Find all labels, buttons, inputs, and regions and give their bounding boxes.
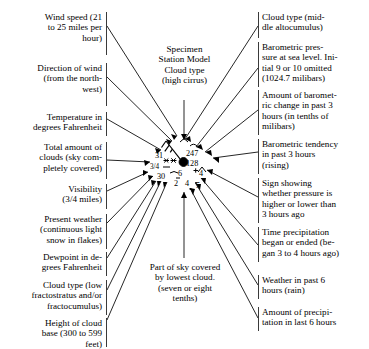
label-line: pletely covered)	[0, 163, 102, 173]
value-dewpoint: 30	[157, 173, 165, 181]
label-line: whether pressure is	[262, 188, 369, 198]
label-precip-time: Time precipitation began or ended (be- g…	[262, 227, 369, 258]
label-line: gan 3 to 4 hours ago)	[262, 248, 369, 258]
diagram-title: Specimen Station Model Cloud type (high …	[132, 44, 237, 86]
label-line: Cloud type (mid-	[262, 12, 369, 22]
leader-rule-right	[258, 12, 259, 38]
label-line: tial 9 or 10 omitted	[262, 63, 369, 73]
label-line: (seven or eight	[124, 283, 246, 293]
label-line: Time precipitation	[262, 227, 369, 237]
label-line: sure at sea level. Ini-	[262, 52, 369, 62]
label-line: base (300 to 599	[0, 328, 102, 338]
label-dewpoint: Dewpoint in de- grees Fahrenheit	[0, 252, 102, 273]
value-past-weather: 4	[185, 180, 189, 188]
leader-rule-right	[258, 178, 259, 223]
label-middle-cloud-type: Cloud type (mid- dle altocumulus)	[262, 12, 369, 33]
leader-rule-left	[106, 280, 107, 315]
leader-rule-left	[106, 184, 107, 209]
label-precip-amount: Amount of precipi- tation in last 6 hour…	[262, 307, 369, 328]
leader-rule-left	[106, 12, 107, 55]
label-line: fractocumulus)	[0, 301, 102, 311]
leader-rule-left	[106, 252, 107, 276]
label-line: (from the north-	[0, 73, 102, 83]
label-line: Total amount of	[0, 142, 102, 152]
label-sea-level-pressure: Barometric pres- sure at sea level. Ini-…	[262, 42, 369, 84]
label-line: degrees Fahrenheit	[0, 122, 102, 132]
label-line: Sign showing	[262, 178, 369, 188]
label-cloud-base-height: Height of cloud base (300 to 599 feet)	[0, 318, 102, 349]
label-visibility: Visibility (3/4 miles)	[0, 184, 102, 205]
label-line: Barometric pres-	[262, 42, 369, 52]
label-line: hours (rain)	[262, 285, 369, 295]
label-line: Wind speed (21	[0, 12, 102, 22]
label-wind-direction: Direction of wind (from the north- west)	[0, 63, 102, 94]
title-line: Specimen	[132, 44, 237, 54]
label-line: Amount of baromet-	[262, 90, 369, 100]
label-wind-speed: Wind speed (21 to 25 miles per hour)	[0, 12, 102, 43]
value-precip-time: 6	[178, 170, 182, 178]
label-line: Barometric tendency	[262, 139, 369, 149]
label-line: Dewpoint in de-	[0, 252, 102, 262]
value-temperature: 31	[155, 152, 163, 160]
label-line: by lowest cloud.	[124, 272, 246, 282]
label-line: to 25 miles per	[0, 22, 102, 32]
label-sky-covered-lowest-cloud: Part of sky covered by lowest cloud. (se…	[124, 262, 246, 304]
label-line: Present weather	[0, 214, 102, 224]
title-line: Cloud type	[132, 65, 237, 75]
label-line: west)	[0, 84, 102, 94]
label-line: higher or lower than	[262, 199, 369, 209]
leader-rule-right	[258, 275, 259, 299]
label-low-cloud-type: Cloud type (low fractostratus and/or fra…	[0, 280, 102, 311]
label-line: Visibility	[0, 184, 102, 194]
label-line: began or ended (be-	[262, 237, 369, 247]
label-line: Cloud type (low	[0, 280, 102, 290]
value-pressure-change: 128	[186, 160, 198, 168]
label-line: fractostratus and/or	[0, 290, 102, 300]
label-line: Part of sky covered	[124, 262, 246, 272]
label-line: milibars)	[262, 121, 369, 131]
label-line: clouds (sky com-	[0, 152, 102, 162]
label-line: Temperature in	[0, 112, 102, 122]
label-line: Height of cloud	[0, 318, 102, 328]
leader-rule-right	[258, 227, 259, 262]
label-line: tation in last 6 hours	[262, 317, 369, 327]
label-pressure-sign: Sign showing whether pressure is higher …	[262, 178, 369, 220]
label-line: hour)	[0, 33, 102, 43]
label-line: snow in flakes)	[0, 235, 102, 245]
leader-rule-left	[106, 63, 107, 106]
label-line: (3/4 miles)	[0, 194, 102, 204]
label-line: (continuous light	[0, 224, 102, 234]
leader-rule-left	[106, 142, 107, 179]
label-line: Direction of wind	[0, 63, 102, 73]
label-past-weather: Weather in past 6 hours (rain)	[262, 275, 369, 296]
value-pressure-tendency: 4	[199, 170, 203, 178]
title-line: Station Model	[132, 54, 237, 64]
label-line: tenths)	[124, 293, 246, 303]
label-line: 3 hours ago	[262, 209, 369, 219]
label-pressure-tendency: Barometric tendency in past 3 hours (ris…	[262, 139, 369, 170]
value-visibility: 3/4	[150, 163, 159, 171]
leader-rule-right	[258, 307, 259, 331]
label-line: Weather in past 6	[262, 275, 369, 285]
leader-rule-left	[106, 214, 107, 249]
label-line: dle altocumulus)	[262, 22, 369, 32]
leader-rule-left	[106, 112, 107, 136]
label-line: grees Fahrenheit	[0, 262, 102, 272]
value-precip-amount: 5	[196, 182, 200, 190]
label-line: ric change in past 3	[262, 100, 369, 110]
label-present-weather: Present weather (continuous light snow i…	[0, 214, 102, 245]
label-line: feet)	[0, 339, 102, 349]
value-sea-level-pressure: 247	[186, 150, 198, 158]
label-total-cloud-cover: Total amount of clouds (sky com- pletely…	[0, 142, 102, 173]
leader-rule-right	[258, 90, 259, 135]
label-temperature: Temperature in degrees Fahrenheit	[0, 112, 102, 133]
label-pressure-change: Amount of baromet- ric change in past 3 …	[262, 90, 369, 132]
leader-rule-left	[106, 318, 107, 347]
label-line: hours (in tenths of	[262, 111, 369, 121]
label-line: (rising)	[262, 160, 369, 170]
label-line: Amount of precipi-	[262, 307, 369, 317]
label-line: (1024.7 milibars)	[262, 73, 369, 83]
value-cloud-base-height: 2	[174, 180, 178, 188]
leader-rule-right	[258, 42, 259, 87]
